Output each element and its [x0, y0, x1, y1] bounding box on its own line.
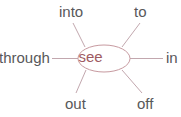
node-label-to: to: [134, 4, 147, 19]
node-label-into: into: [59, 4, 83, 19]
spoke-to: [122, 23, 140, 47]
node-label-through: through: [0, 50, 50, 65]
node-label-out: out: [65, 96, 86, 111]
node-label-off: off: [137, 96, 153, 111]
word-web-diagram: see into to through in out off: [0, 0, 181, 117]
spoke-out: [76, 70, 86, 93]
spoke-into: [73, 23, 85, 47]
node-label-in: in: [166, 50, 178, 65]
spoke-off: [122, 70, 142, 93]
